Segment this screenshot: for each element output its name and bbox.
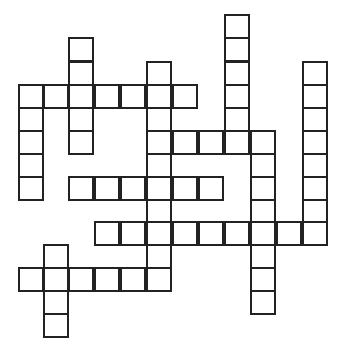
crossword-letter-input[interactable] (122, 269, 144, 290)
crossword-cell[interactable] (276, 221, 302, 246)
crossword-cell[interactable] (68, 267, 94, 292)
crossword-cell[interactable] (250, 267, 276, 292)
crossword-cell[interactable] (146, 153, 172, 178)
crossword-letter-input[interactable] (20, 109, 42, 130)
crossword-letter-input[interactable] (226, 16, 248, 37)
crossword-cell[interactable] (43, 313, 69, 338)
crossword-cell[interactable] (18, 176, 44, 201)
crossword-cell[interactable] (68, 61, 94, 86)
crossword-letter-input[interactable] (304, 132, 326, 153)
crossword-cell[interactable] (43, 290, 69, 315)
crossword-letter-input[interactable] (148, 132, 170, 153)
crossword-letter-input[interactable] (148, 201, 170, 222)
crossword-letter-input[interactable] (252, 269, 274, 290)
crossword-cell[interactable] (18, 153, 44, 178)
crossword-letter-input[interactable] (226, 63, 248, 84)
crossword-letter-input[interactable] (20, 178, 42, 199)
crossword-cell[interactable] (198, 221, 224, 246)
crossword-cell[interactable] (146, 61, 172, 86)
crossword-cell[interactable] (18, 84, 44, 109)
crossword-letter-input[interactable] (20, 155, 42, 176)
crossword-letter-input[interactable] (20, 269, 42, 290)
crossword-letter-input[interactable] (96, 178, 118, 199)
crossword-cell[interactable] (18, 130, 44, 155)
crossword-cell[interactable] (68, 176, 94, 201)
crossword-cell[interactable] (302, 221, 328, 246)
crossword-cell[interactable] (146, 244, 172, 269)
crossword-letter-input[interactable] (226, 223, 248, 244)
crossword-cell[interactable] (250, 153, 276, 178)
crossword-cell[interactable] (302, 61, 328, 86)
crossword-letter-input[interactable] (148, 178, 170, 199)
crossword-letter-input[interactable] (45, 86, 67, 107)
crossword-letter-input[interactable] (122, 86, 144, 107)
crossword-letter-input[interactable] (122, 178, 144, 199)
crossword-cell[interactable] (250, 221, 276, 246)
crossword-letter-input[interactable] (70, 132, 92, 153)
crossword-cell[interactable] (224, 37, 250, 62)
crossword-letter-input[interactable] (252, 246, 274, 267)
crossword-letter-input[interactable] (148, 246, 170, 267)
crossword-letter-input[interactable] (174, 223, 196, 244)
crossword-cell[interactable] (120, 176, 146, 201)
crossword-letter-input[interactable] (252, 201, 274, 222)
crossword-cell[interactable] (224, 84, 250, 109)
crossword-cell[interactable] (120, 221, 146, 246)
crossword-letter-input[interactable] (20, 132, 42, 153)
crossword-cell[interactable] (224, 14, 250, 39)
crossword-letter-input[interactable] (200, 178, 222, 199)
crossword-letter-input[interactable] (148, 155, 170, 176)
crossword-cell[interactable] (198, 130, 224, 155)
crossword-cell[interactable] (94, 176, 120, 201)
crossword-letter-input[interactable] (70, 86, 92, 107)
crossword-cell[interactable] (120, 84, 146, 109)
crossword-cell[interactable] (224, 107, 250, 132)
crossword-letter-input[interactable] (226, 86, 248, 107)
crossword-cell[interactable] (172, 221, 198, 246)
crossword-cell[interactable] (250, 244, 276, 269)
crossword-letter-input[interactable] (148, 86, 170, 107)
crossword-letter-input[interactable] (200, 132, 222, 153)
crossword-letter-input[interactable] (278, 223, 300, 244)
crossword-cell[interactable] (146, 130, 172, 155)
crossword-letter-input[interactable] (304, 201, 326, 222)
crossword-cell[interactable] (68, 130, 94, 155)
crossword-letter-input[interactable] (304, 178, 326, 199)
crossword-cell[interactable] (146, 107, 172, 132)
crossword-letter-input[interactable] (20, 86, 42, 107)
crossword-cell[interactable] (43, 84, 69, 109)
crossword-letter-input[interactable] (200, 223, 222, 244)
crossword-cell[interactable] (68, 37, 94, 62)
crossword-cell[interactable] (224, 221, 250, 246)
crossword-letter-input[interactable] (70, 109, 92, 130)
crossword-cell[interactable] (172, 176, 198, 201)
crossword-letter-input[interactable] (148, 63, 170, 84)
crossword-letter-input[interactable] (304, 86, 326, 107)
crossword-cell[interactable] (146, 221, 172, 246)
crossword-cell[interactable] (302, 84, 328, 109)
crossword-letter-input[interactable] (70, 39, 92, 60)
crossword-letter-input[interactable] (252, 178, 274, 199)
crossword-letter-input[interactable] (70, 63, 92, 84)
crossword-cell[interactable] (302, 153, 328, 178)
crossword-cell[interactable] (172, 84, 198, 109)
crossword-letter-input[interactable] (174, 86, 196, 107)
crossword-letter-input[interactable] (174, 132, 196, 153)
crossword-cell[interactable] (198, 176, 224, 201)
crossword-cell[interactable] (172, 130, 198, 155)
crossword-letter-input[interactable] (45, 269, 67, 290)
crossword-letter-input[interactable] (148, 269, 170, 290)
crossword-cell[interactable] (146, 176, 172, 201)
crossword-letter-input[interactable] (96, 269, 118, 290)
crossword-letter-input[interactable] (252, 223, 274, 244)
crossword-letter-input[interactable] (226, 109, 248, 130)
crossword-cell[interactable] (146, 84, 172, 109)
crossword-cell[interactable] (250, 176, 276, 201)
crossword-letter-input[interactable] (96, 86, 118, 107)
crossword-cell[interactable] (18, 267, 44, 292)
crossword-letter-input[interactable] (304, 109, 326, 130)
crossword-cell[interactable] (94, 267, 120, 292)
crossword-cell[interactable] (224, 130, 250, 155)
crossword-letter-input[interactable] (148, 109, 170, 130)
crossword-letter-input[interactable] (45, 315, 67, 336)
